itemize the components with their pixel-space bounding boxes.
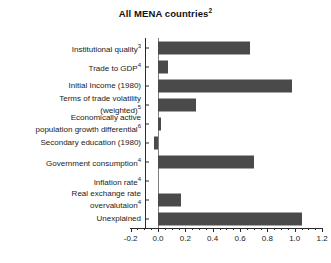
- y-axis-tick: [145, 66, 149, 67]
- bar-row: Inflation rate4: [0, 171, 331, 190]
- bar: [158, 79, 292, 92]
- x-axis-minor-tick: [254, 228, 255, 230]
- category-label-superscript: 3: [138, 42, 141, 48]
- category-label: Economically active population growth di…: [5, 113, 145, 135]
- bar-row: Economically active population growth di…: [0, 114, 331, 133]
- category-label-superscript: 4: [138, 156, 141, 162]
- x-axis-minor-tick: [151, 228, 152, 230]
- x-axis-major-tick: [322, 228, 323, 232]
- x-axis-major-tick: [131, 228, 132, 232]
- category-label: Initial Income (1980): [5, 81, 145, 91]
- bar: [158, 60, 168, 73]
- x-axis-minor-tick: [274, 228, 275, 230]
- bar: [154, 136, 158, 149]
- x-axis-minor-tick: [137, 228, 138, 230]
- x-axis-minor-tick: [172, 228, 173, 230]
- x-axis-minor-tick: [261, 228, 262, 230]
- category-label: Institutional quality3: [5, 41, 145, 53]
- category-label: Trade to GDP4: [5, 60, 145, 72]
- y-axis-tick: [145, 123, 149, 124]
- bar-rows: Institutional quality3Trade to GDP4Initi…: [0, 38, 331, 228]
- x-axis-major-tick: [295, 228, 296, 232]
- x-axis-minor-tick: [206, 228, 207, 230]
- x-axis-major-tick: [158, 228, 159, 232]
- y-axis-tick: [145, 199, 149, 200]
- bar: [158, 41, 250, 54]
- y-axis-tick: [145, 180, 149, 181]
- bar-row: Unexplained: [0, 209, 331, 228]
- x-axis-minor-tick: [226, 228, 227, 230]
- x-axis-minor-tick: [220, 228, 221, 230]
- x-axis-major-tick: [240, 228, 241, 232]
- y-axis-tick: [145, 47, 149, 48]
- category-label-superscript: 4: [138, 61, 141, 67]
- bar-row: Government consumption4: [0, 152, 331, 171]
- bar: [158, 117, 161, 130]
- x-axis-minor-tick: [315, 228, 316, 230]
- bar: [158, 98, 196, 111]
- y-axis-tick: [145, 104, 149, 105]
- y-axis-tick: [145, 142, 149, 143]
- x-axis-minor-tick: [288, 228, 289, 230]
- x-axis-minor-tick: [281, 228, 282, 230]
- bar-row: Trade to GDP4: [0, 57, 331, 76]
- plot-area: Institutional quality3Trade to GDP4Initi…: [0, 0, 331, 263]
- bar-row: Real exchange rate overvalutaion4: [0, 190, 331, 209]
- category-label-superscript: 5: [138, 104, 141, 110]
- bar-row: Secondary education (1980): [0, 133, 331, 152]
- category-label: Government consumption4: [5, 155, 145, 167]
- bar-row: Institutional quality3: [0, 38, 331, 57]
- x-axis-minor-tick: [247, 228, 248, 230]
- x-axis-ticks: -0.20.00.20.40.60.81.01.2: [0, 228, 331, 258]
- bar: [158, 155, 254, 168]
- x-axis-major-tick: [185, 228, 186, 232]
- category-label: Secondary education (1980): [5, 138, 145, 148]
- x-axis-major-tick: [267, 228, 268, 232]
- y-axis-tick: [145, 218, 149, 219]
- category-label-superscript: 6: [138, 123, 141, 129]
- x-axis-minor-tick: [165, 228, 166, 230]
- x-axis-major-tick: [213, 228, 214, 232]
- chart-container: All MENA countries2 Institutional qualit…: [0, 0, 331, 263]
- category-label-superscript: 4: [138, 175, 141, 181]
- x-axis-minor-tick: [233, 228, 234, 230]
- x-axis-minor-tick: [302, 228, 303, 230]
- category-label-superscript: 4: [138, 199, 141, 205]
- bar-row: Initial Income (1980): [0, 76, 331, 95]
- category-label: Unexplained: [5, 214, 145, 224]
- x-axis-minor-tick: [144, 228, 145, 230]
- bar: [158, 193, 181, 206]
- x-axis-minor-tick: [179, 228, 180, 230]
- y-axis-tick: [145, 85, 149, 86]
- bar: [158, 212, 302, 225]
- category-label: Real exchange rate overvalutaion4: [5, 189, 145, 211]
- bar-row: Terms of trade volatility (weighted)5: [0, 95, 331, 114]
- x-axis-minor-tick: [199, 228, 200, 230]
- y-axis-tick: [145, 161, 149, 162]
- category-label: Inflation rate4: [5, 174, 145, 186]
- x-axis-minor-tick: [192, 228, 193, 230]
- x-axis-minor-tick: [308, 228, 309, 230]
- x-axis-tick-label: 1.2: [306, 234, 331, 243]
